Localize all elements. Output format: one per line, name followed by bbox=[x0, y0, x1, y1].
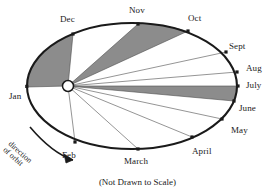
marker-aug bbox=[235, 70, 238, 73]
marker-july bbox=[236, 84, 239, 87]
month-label-sept: Sept bbox=[229, 42, 245, 51]
marker-nov bbox=[136, 22, 139, 25]
month-label-may: May bbox=[231, 126, 248, 135]
month-label-july: July bbox=[246, 81, 261, 90]
month-label-oct: Oct bbox=[188, 14, 201, 23]
marker-jan bbox=[25, 85, 28, 88]
month-label-feb: Feb bbox=[62, 151, 76, 160]
ray-to-feb bbox=[68, 86, 75, 142]
month-label-april: April bbox=[192, 147, 212, 156]
shaded-sector-jan-dec bbox=[27, 34, 73, 87]
month-label-dec: Dec bbox=[60, 15, 75, 24]
figure-caption: (Not Drawn to Scale) bbox=[0, 177, 275, 187]
month-label-march: March bbox=[124, 157, 148, 166]
marker-april bbox=[190, 135, 193, 138]
marker-dec bbox=[71, 32, 74, 35]
shaded-sector-nov-oct bbox=[68, 24, 188, 86]
orbit-diagram: Jan Dec Nov Oct Sept Aug July June May A… bbox=[0, 0, 275, 194]
marker-feb bbox=[73, 140, 76, 143]
month-label-aug: Aug bbox=[246, 64, 262, 73]
month-label-nov: Nov bbox=[129, 6, 145, 15]
shaded-sectors-group bbox=[27, 24, 238, 101]
month-label-jan: Jan bbox=[9, 92, 21, 101]
sun-icon bbox=[63, 81, 74, 92]
marker-june bbox=[232, 99, 235, 102]
marker-sept bbox=[224, 50, 227, 53]
marker-march bbox=[136, 147, 139, 150]
month-label-june: June bbox=[239, 104, 256, 113]
marker-may bbox=[220, 117, 223, 120]
marker-oct bbox=[186, 29, 189, 32]
